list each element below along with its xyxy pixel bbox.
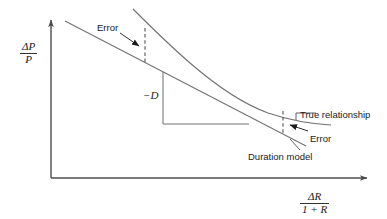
duration-model-figure: ΔP P ΔR 1 + R −D Error Error True relati… [0,0,387,219]
error-label-bottom: Error [310,134,331,144]
true-relationship-label: True relationship [300,110,370,120]
error-label-top: Error [97,23,118,33]
x-axis-label-denominator: 1 + R [300,204,329,216]
x-axis-label: ΔR 1 + R [300,191,329,215]
error-bottom-leader [290,125,308,131]
y-axis-label-numerator: ΔP [20,41,37,54]
y-axis-label-denominator: P [20,54,37,66]
slope-label-minus-d: −D [143,89,158,101]
y-axis-label: ΔP P [20,41,37,65]
error-top-leader [120,33,139,46]
duration-model-label: Duration model [248,152,312,162]
x-axis-label-numerator: ΔR [300,191,329,204]
duration-model-line [65,21,306,146]
